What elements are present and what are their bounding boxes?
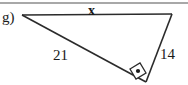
side-label-hypotenuse: 21 [53,48,68,63]
side-label-top: x [88,4,95,18]
figure-canvas: g) x 21 14 [0,0,188,85]
side-label-right: 14 [160,47,175,62]
right-angle-dot [136,69,140,73]
triangle-hypotenuse-side [22,15,146,82]
right-angle-marker [130,63,146,79]
triangle-top-side [22,14,172,15]
figure-item-label: g) [2,10,15,25]
